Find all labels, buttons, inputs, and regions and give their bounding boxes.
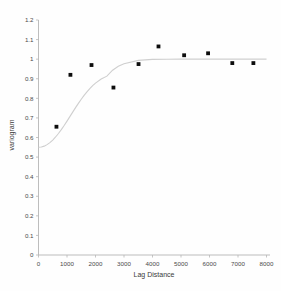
x-tick-label: 1000 (60, 260, 74, 267)
y-tick-label: 0.8 (25, 95, 34, 102)
variogram-chart: 00.10.20.30.40.50.60.70.80.911.11.2 0100… (0, 0, 281, 291)
data-point-marker (230, 61, 234, 65)
x-tick-label: 5000 (174, 260, 188, 267)
data-point-marker (157, 45, 161, 49)
data-point-marker (251, 61, 255, 65)
y-tick-label: 0 (30, 251, 34, 258)
chart-canvas: 00.10.20.30.40.50.60.70.80.911.11.2 0100… (0, 0, 281, 291)
x-tick-label: 7000 (231, 260, 245, 267)
data-points (55, 45, 256, 129)
y-tick-label: 1 (30, 55, 34, 62)
data-point-marker (55, 125, 59, 129)
y-tick-label: 0.7 (25, 114, 34, 121)
data-point-marker (90, 63, 94, 67)
x-tick-label: 6000 (203, 260, 217, 267)
y-tick-label: 1.2 (25, 16, 34, 23)
y-tick-label: 0.4 (25, 173, 34, 180)
x-tick-label: 4000 (146, 260, 160, 267)
x-tick-label: 2000 (89, 260, 103, 267)
data-point-marker (182, 53, 186, 57)
y-tick-label: 0.1 (25, 232, 34, 239)
data-point-marker (69, 73, 73, 77)
y-tick-label: 0.9 (25, 75, 34, 82)
y-tick-label: 1.1 (25, 36, 34, 43)
y-tick-label: 0.3 (25, 192, 34, 199)
y-axis-ticks: 00.10.20.30.40.50.60.70.80.911.11.2 (25, 16, 39, 258)
y-axis-title: variogram (8, 119, 16, 150)
data-point-marker (112, 86, 116, 90)
x-tick-label: 3000 (117, 260, 131, 267)
y-tick-label: 0.5 (25, 153, 34, 160)
x-tick-label: 8000 (260, 260, 274, 267)
y-tick-label: 0.6 (25, 134, 34, 141)
y-tick-label: 0.2 (25, 212, 34, 219)
x-tick-label: 0 (37, 260, 41, 267)
x-axis-ticks: 010002000300040005000600070008000 (37, 255, 274, 267)
fitted-model-curve (39, 59, 267, 147)
x-axis-title: Lag Distance (134, 271, 175, 279)
data-point-marker (206, 51, 210, 55)
data-point-marker (137, 62, 141, 66)
